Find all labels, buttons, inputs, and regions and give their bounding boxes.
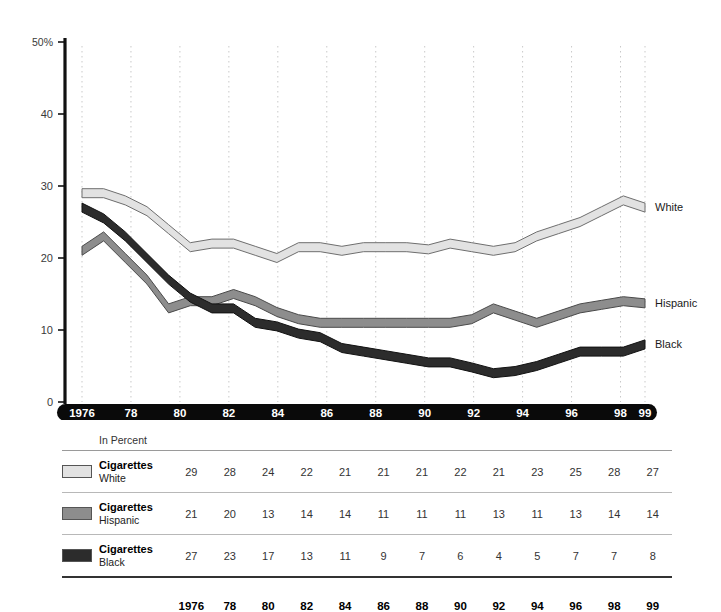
legend-swatch-black [62,549,92,562]
table-year-label: 92 [480,577,518,612]
row-swatch-cell [62,535,94,578]
x-tick-label: 90 [418,407,431,419]
row-series-name: Cigarettes [99,459,172,472]
table-cell-value: 21 [480,451,518,493]
table-cell-value: 27 [633,451,672,493]
table-cell-value: 7 [403,535,441,578]
table-cell-value: 11 [403,493,441,535]
y-tick-label: 20 [41,252,53,264]
row-label-cell: CigarettesBlack [94,535,172,578]
table-cell-value: 13 [557,493,595,535]
row-label-cell: CigarettesHispanic [94,493,172,535]
row-series-group: Black [99,556,172,569]
table-cell-value: 14 [633,493,672,535]
table-year-label: 88 [403,577,441,612]
table-cell-value: 11 [518,493,556,535]
table-cell-value: 9 [364,535,402,578]
x-tick-label: 92 [467,407,480,419]
table-cell-value: 28 [595,451,633,493]
chart-page: 01020304050% 197678808284868890929496989… [0,0,721,612]
series-label-black: Black [655,338,682,350]
table-year-label: 84 [326,577,364,612]
year-row-spacer [62,577,94,612]
table-cell-value: 21 [403,451,441,493]
table-cell-value: 5 [518,535,556,578]
unit-spacer [62,428,94,451]
unit-row: In Percent [62,428,672,451]
chart-svg: 01020304050% 197678808284868890929496989… [0,0,721,420]
y-tick-label: 10 [41,324,53,336]
table-year-label: 78 [211,577,249,612]
table-row: CigarettesBlack272317131197645778 [62,535,672,578]
y-tick-label: 0 [47,396,53,408]
table-cell-value: 8 [633,535,672,578]
data-table: In Percent CigarettesWhite29282422212121… [62,428,672,612]
table-cell-value: 25 [557,451,595,493]
table-cell-value: 7 [595,535,633,578]
row-swatch-cell [62,451,94,493]
table-cell-value: 11 [441,493,479,535]
legend-swatch-hispanic [62,507,92,520]
table-row: CigarettesWhite2928242221212122212325282… [62,451,672,493]
row-label-cell: CigarettesWhite [94,451,172,493]
table-cell-value: 20 [211,493,249,535]
table-row: CigarettesHispanic2120131414111111131113… [62,493,672,535]
x-tick-label: 96 [565,407,578,419]
row-swatch-cell [62,493,94,535]
table-cell-value: 7 [557,535,595,578]
table-cell-value: 24 [249,451,287,493]
row-series-group: Hispanic [99,514,172,527]
unit-label: In Percent [94,434,147,446]
table-cell-value: 21 [172,493,210,535]
series-label-white: White [655,201,683,213]
table-cell-value: 21 [364,451,402,493]
table-cell-value: 13 [249,493,287,535]
table-year-label: 98 [595,577,633,612]
row-series-name: Cigarettes [99,501,172,514]
y-tick-label: 40 [41,108,53,120]
table-cell-value: 14 [287,493,325,535]
x-tick-label: 88 [369,407,382,419]
x-tick-label: 80 [174,407,187,419]
table-year-label: 86 [364,577,402,612]
y-tick-label: 50% [32,36,53,48]
table-cell-value: 21 [326,451,364,493]
table-cell-value: 28 [211,451,249,493]
table-year-label: 94 [518,577,556,612]
table-cell-value: 29 [172,451,210,493]
table-cell-value: 4 [480,535,518,578]
x-tick-label: 84 [271,407,284,419]
y-axis: 01020304050% [32,36,65,408]
x-tick-label: 1976 [69,407,95,419]
series-label-hispanic: Hispanic [655,297,698,309]
values-table: In Percent CigarettesWhite29282422212121… [62,428,672,612]
table-cell-value: 22 [287,451,325,493]
row-series-group: White [99,472,172,485]
table-cell-value: 14 [595,493,633,535]
year-row-spacer-2 [94,577,172,612]
table-cell-value: 23 [518,451,556,493]
table-year-label: 99 [633,577,672,612]
x-tick-label: 98 [614,407,627,419]
legend-swatch-white [62,465,92,478]
y-tick-label: 30 [41,180,53,192]
line-chart: 01020304050% 197678808284868890929496989… [0,0,721,420]
table-cell-value: 17 [249,535,287,578]
table-cell-value: 22 [441,451,479,493]
series-bands [82,189,645,378]
x-axis-bar: 1976788082848688909294969899 [57,404,657,420]
series-band-white [82,189,645,263]
table-cell-value: 13 [287,535,325,578]
unit-label-cell: In Percent [94,428,672,451]
table-cell-value: 11 [326,535,364,578]
table-year-label: 90 [441,577,479,612]
table-cell-value: 14 [326,493,364,535]
table-year-label: 80 [249,577,287,612]
x-tick-label: 78 [125,407,138,419]
row-series-name: Cigarettes [99,543,172,556]
series-legend-labels: WhiteHispanicBlack [655,201,698,350]
table-year-header-row: 1976788082848688909294969899 [62,577,672,612]
table-year-label: 96 [557,577,595,612]
table-cell-value: 11 [364,493,402,535]
table-cell-value: 23 [211,535,249,578]
